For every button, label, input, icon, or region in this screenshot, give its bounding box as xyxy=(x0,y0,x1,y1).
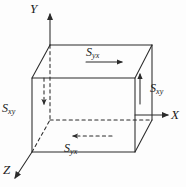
top-right-diagonal xyxy=(135,45,152,78)
axis-label-z: Z xyxy=(3,163,10,176)
stress-subscript-bottom: yx xyxy=(70,147,78,156)
stress-label-right: Sxy xyxy=(150,82,164,96)
axis-label-y: Y xyxy=(30,2,37,15)
top-left-diagonal xyxy=(32,45,50,78)
stress-label-bottom: Syx xyxy=(64,142,78,156)
front-face xyxy=(32,78,135,152)
stress-subscript-right: xy xyxy=(156,87,164,96)
stress-label-left: Sxy xyxy=(2,102,16,116)
hidden-bottom-diagonal xyxy=(32,120,50,152)
axis-label-x: X xyxy=(171,108,179,121)
stress-subscript-top: yx xyxy=(92,51,100,60)
stress-element-figure: Y X Z Syx Sxy Sxy Syx xyxy=(0,0,186,187)
bottom-right-diagonal xyxy=(135,120,152,152)
z-axis-line xyxy=(15,152,32,178)
stress-label-top: Syx xyxy=(86,46,100,60)
stress-subscript-left: xy xyxy=(8,107,16,116)
